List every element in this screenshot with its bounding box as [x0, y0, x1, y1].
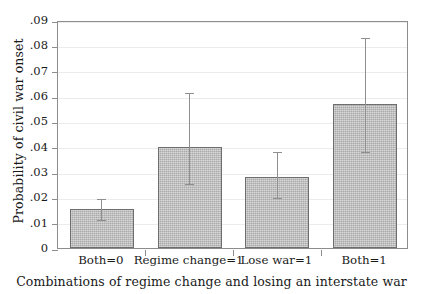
error-bar [101, 200, 102, 221]
x-axis-label: Both=1 [299, 253, 423, 267]
error-bar-cap-lower [361, 152, 370, 153]
error-bar-cap-upper [185, 93, 194, 94]
error-bar [365, 39, 366, 153]
error-bar-cap-lower [185, 184, 194, 185]
y-axis-tick [52, 72, 58, 73]
y-axis-label: .04 [4, 142, 48, 153]
y-gridline [58, 22, 407, 23]
chart-figure: Probability of civil war onset Combinati… [0, 0, 423, 294]
y-axis-label: .06 [4, 91, 48, 102]
y-gridline [58, 72, 407, 73]
error-bar-cap-lower [97, 220, 106, 221]
y-axis-tick [52, 123, 58, 124]
y-axis-label: .09 [4, 15, 48, 26]
plot-area [57, 21, 408, 249]
y-axis-tick [52, 148, 58, 149]
y-axis-label: .05 [4, 116, 48, 127]
error-bar [277, 152, 278, 198]
y-axis-label: .03 [4, 167, 48, 178]
y-axis-label: .02 [4, 192, 48, 203]
y-gridline [58, 47, 407, 48]
y-axis-label: .01 [4, 218, 48, 229]
x-axis-title: Combinations of regime change and losing… [0, 274, 423, 289]
error-bar-cap-upper [97, 199, 106, 200]
error-bar-cap-upper [361, 38, 370, 39]
y-axis-tick [52, 250, 58, 251]
y-axis-tick [52, 98, 58, 99]
y-axis-tick [52, 224, 58, 225]
error-bar-cap-upper [273, 152, 282, 153]
y-gridline [58, 98, 407, 99]
y-axis-tick [52, 47, 58, 48]
y-axis-label: .07 [4, 66, 48, 77]
y-axis-label: .08 [4, 40, 48, 51]
y-axis-tick [52, 174, 58, 175]
error-bar [189, 94, 190, 185]
y-axis-tick [52, 199, 58, 200]
y-axis-tick [52, 22, 58, 23]
error-bar-cap-lower [273, 198, 282, 199]
